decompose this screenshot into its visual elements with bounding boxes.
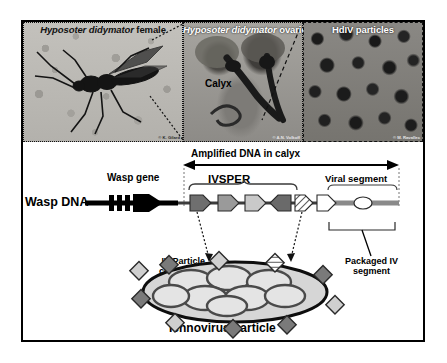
panel-ovaries-title: Hyposoter didymator ovaries <box>183 24 303 35</box>
viral-segment-circle <box>354 197 372 209</box>
panel-wasp-title-species: Hyposoter didymator <box>40 24 134 35</box>
ivsper-gene-4-reverse <box>270 195 291 211</box>
component-leader-lines <box>197 212 302 258</box>
panel-ovaries-title-rest: ovaries <box>277 24 303 35</box>
packaged-segment-leader <box>362 230 371 256</box>
panel-hdiv-credit: © M. Ravallec <box>393 135 420 140</box>
panel-ovaries-credit: © A.N. Volkoff <box>272 135 300 140</box>
calyx-label: Calyx <box>205 78 232 89</box>
panel-wasp-title: Hyposoter didymator female <box>23 24 183 35</box>
amplified-arrow-left-head <box>183 160 195 170</box>
connector-ovaries-hdiv <box>262 28 300 120</box>
panel-hdiv-title: HdIV particles <box>303 24 423 35</box>
panel-hdiv-title-rest: HdIV particles <box>332 24 394 35</box>
diagram-area: Wasp DNA Wasp gene Amplified DNA in caly… <box>23 146 423 340</box>
leader-gene1 <box>197 212 209 258</box>
viral-segment-brace <box>328 185 397 190</box>
panel-wasp-title-rest: female <box>134 24 166 35</box>
ichnovirus-particle-glyph <box>130 252 344 338</box>
leader-gene5 <box>291 212 302 258</box>
wasp-gene-glyph <box>109 194 163 212</box>
ivsper-gene-3 <box>245 195 266 211</box>
ivsper-gene-2 <box>218 195 239 211</box>
panel-ovaries-title-species: Hyposoter didymator <box>183 24 277 35</box>
panel-wasp-credit: © K. Gilard <box>158 135 180 140</box>
diagram-graphics <box>23 146 423 340</box>
ivsper-gene-5-hatched <box>295 195 313 211</box>
leader-gene5-head <box>287 253 295 262</box>
packaged-segment-bracket <box>329 222 395 230</box>
ivsper-brace <box>189 179 297 190</box>
figure-root: Hyposoter didymator female © K. Gilard C… <box>0 0 447 363</box>
ivsper-gene-6 <box>317 195 336 211</box>
ivsper-gene-1 <box>190 195 211 211</box>
connector-bottom <box>150 96 183 140</box>
amplified-arrow-right-head <box>387 160 399 170</box>
